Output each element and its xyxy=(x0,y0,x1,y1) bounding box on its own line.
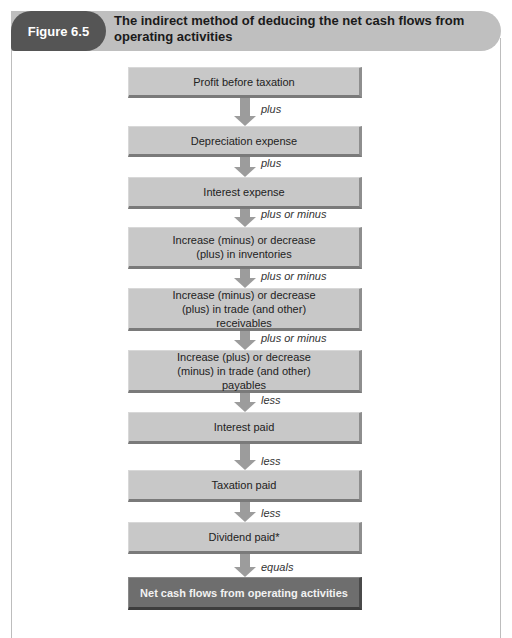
connector-label: equals xyxy=(261,561,293,573)
figure-title: The indirect method of deducing the net … xyxy=(114,13,474,45)
step-payables: Increase (plus) or decrease (minus) in t… xyxy=(128,350,362,393)
step-label: Increase (plus) or decrease (minus) in t… xyxy=(159,350,329,392)
connector-label: less xyxy=(261,394,281,406)
connector-label: less xyxy=(261,455,281,467)
step-depreciation-expense: Depreciation expense xyxy=(128,126,362,157)
step-receivables: Increase (minus) or decrease (plus) in t… xyxy=(128,288,362,331)
step-label: Depreciation expense xyxy=(191,134,297,148)
figure-label-pill: Figure 6.5 xyxy=(11,11,106,51)
connector-label: plus xyxy=(261,103,281,115)
down-arrow-icon xyxy=(234,157,256,177)
step-taxation-paid: Taxation paid xyxy=(128,470,362,502)
step-label: Interest paid xyxy=(214,420,275,434)
step-net-cash-flows: Net cash flows from operating activities xyxy=(128,577,362,610)
connector-label: plus or minus xyxy=(261,270,326,282)
connector-label: plus or minus xyxy=(261,332,326,344)
down-arrow-icon xyxy=(234,98,256,126)
step-label: Interest expense xyxy=(203,185,284,199)
step-label: Dividend paid* xyxy=(209,530,280,544)
connector-label: plus xyxy=(261,157,281,169)
step-interest-paid: Interest paid xyxy=(128,412,362,444)
down-arrow-icon xyxy=(234,331,256,350)
connector-label: plus or minus xyxy=(261,208,326,220)
down-arrow-icon xyxy=(234,502,256,522)
step-dividend-paid: Dividend paid* xyxy=(128,522,362,554)
step-label: Profit before taxation xyxy=(193,75,295,89)
down-arrow-icon xyxy=(234,209,256,227)
step-profit-before-taxation: Profit before taxation xyxy=(128,67,362,98)
step-label: Increase (minus) or decrease (plus) in t… xyxy=(159,288,329,330)
down-arrow-icon xyxy=(234,269,256,288)
step-interest-expense: Interest expense xyxy=(128,177,362,209)
step-inventories: Increase (minus) or decrease (plus) in i… xyxy=(128,227,362,269)
down-arrow-icon xyxy=(234,554,256,577)
down-arrow-icon xyxy=(234,444,256,470)
step-label: Taxation paid xyxy=(212,478,277,492)
down-arrow-icon xyxy=(234,393,256,412)
figure-label: Figure 6.5 xyxy=(28,24,89,39)
step-label: Net cash flows from operating activities xyxy=(140,586,348,600)
step-label: Increase (minus) or decrease (plus) in i… xyxy=(159,233,329,261)
connector-label: less xyxy=(261,507,281,519)
